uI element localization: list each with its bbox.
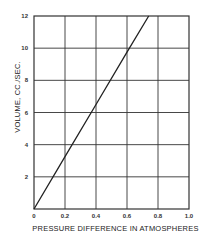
- x-tick-label: 1.0: [185, 213, 194, 219]
- y-tick-label: 2: [25, 174, 29, 180]
- x-axis-ticks: 00.20.40.60.81.0: [32, 213, 194, 219]
- y-tick-label: 6: [25, 110, 29, 116]
- x-tick-label: 0.6: [123, 213, 132, 219]
- x-tick-label: 0.8: [154, 213, 163, 219]
- x-tick-label: 0.4: [92, 213, 101, 219]
- y-axis-ticks: 24681012: [21, 13, 28, 180]
- grid: [34, 16, 189, 209]
- y-axis-label: VOLUME, CC./SEC.: [13, 61, 22, 133]
- chart: 24681012 00.20.40.60.81.0 PRESSURE DIFFE…: [0, 0, 199, 239]
- y-tick-label: 4: [25, 142, 29, 148]
- x-tick-label: 0.2: [61, 213, 70, 219]
- y-tick-label: 12: [21, 13, 28, 19]
- y-tick-label: 10: [21, 45, 28, 51]
- x-axis-label: PRESSURE DIFFERENCE IN ATMOSPHERES: [32, 224, 198, 233]
- x-tick-label: 0: [32, 213, 36, 219]
- y-tick-label: 8: [25, 77, 29, 83]
